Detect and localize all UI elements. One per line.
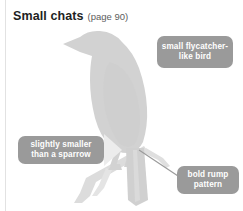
callout-line-2: than a sparrow [31, 150, 91, 161]
bird-tail-shape [126, 148, 148, 206]
callout-line-1: slightly smaller [30, 140, 91, 151]
small-chats-figure: Small chats(page 90) [0, 0, 243, 211]
callout-line-1: bold rump [188, 170, 229, 181]
callout-line-2: like bird [179, 52, 211, 63]
callout-line-1: small flycatcher- [162, 42, 228, 53]
callout-bold-rump-pattern: bold rump pattern [177, 166, 239, 194]
callout-line-2: pattern [194, 180, 222, 191]
bird-body-silhouette [63, 31, 147, 153]
callout-small-flycatcher-like-bird: small flycatcher- like bird [157, 36, 233, 68]
callout-slightly-smaller-than-a-sparrow: slightly smaller than a sparrow [18, 136, 104, 164]
